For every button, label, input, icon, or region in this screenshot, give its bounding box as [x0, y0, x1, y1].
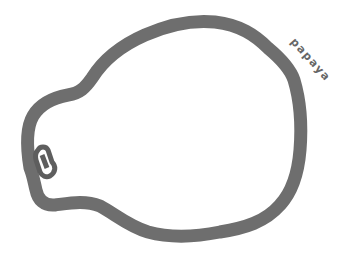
papaya-stem — [36, 147, 55, 177]
papaya-outline — [28, 22, 301, 237]
papaya-drawing: papaya — [0, 0, 342, 274]
